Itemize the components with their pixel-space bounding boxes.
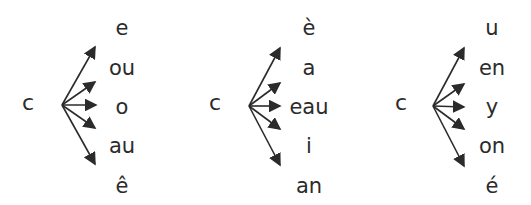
arrow-1 [433, 48, 464, 106]
arrow-5 [433, 106, 464, 166]
vowel-label: u [485, 16, 498, 40]
vowel-label: an [296, 174, 322, 198]
arrow-5 [62, 105, 95, 164]
arrow-2 [62, 82, 95, 105]
vowel-label: è [303, 16, 316, 40]
arrow-1 [62, 47, 95, 105]
vowel-label: o [116, 95, 129, 119]
syllable-group-2: c è a eau i an [180, 0, 360, 205]
vowel-label: i [306, 134, 312, 158]
arrow-fan [180, 0, 360, 205]
arrow-5 [249, 106, 280, 165]
vowel-label: au [109, 134, 135, 158]
vowel-label: on [479, 134, 505, 158]
arrow-4 [249, 106, 280, 129]
vowel-label: é [486, 174, 499, 198]
arrow-4 [62, 105, 95, 128]
vowel-label: ê [116, 174, 129, 198]
vowel-label: eau [289, 95, 328, 119]
arrow-fan [360, 0, 531, 205]
arrow-fan [0, 0, 180, 205]
arrow-1 [249, 48, 280, 106]
vowel-label: e [116, 16, 129, 40]
arrow-4 [433, 106, 464, 129]
syllable-group-1: c e ou o au ê [0, 0, 180, 205]
syllable-group-3: c u en y on é [360, 0, 531, 205]
arrow-3 [433, 106, 464, 107]
vowel-label: a [303, 56, 316, 80]
arrow-2 [249, 83, 280, 106]
vowel-label: y [486, 95, 498, 119]
vowel-label: ou [109, 56, 135, 80]
vowel-label: en [479, 56, 505, 80]
arrow-2 [433, 84, 464, 106]
